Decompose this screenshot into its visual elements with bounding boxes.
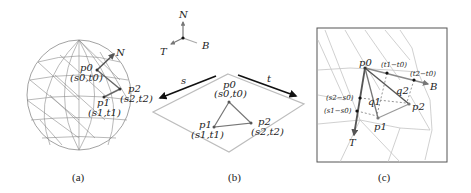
panel-c-t1-t0-label: (t1−t0) <box>381 61 407 69</box>
panel-b-p0-uv-label: (s0,t0) <box>214 88 247 99</box>
panel-c-p2-label: p2 <box>412 101 425 112</box>
panel-a-p1-uv-label: (s1,t1) <box>88 107 121 118</box>
panel-b-p2-uv-label: (s2,t2) <box>251 126 284 137</box>
panel-c-q2-label: q2 <box>396 85 409 96</box>
panel-a-normal-label: N <box>115 47 126 58</box>
panel-b-axis-b-label: B <box>201 40 209 51</box>
panel-c-s2-s0-label: (s2−s0) <box>326 94 354 102</box>
panel-b-axis-t-label: T <box>160 46 168 57</box>
panel-a-p0-uv-label: (s0,t0) <box>70 72 103 83</box>
panel-b-caption: (b) <box>228 171 241 184</box>
panel-c-b-label: B <box>429 81 437 92</box>
panel-a-caption: (a) <box>72 171 85 184</box>
panel-c-s1-s0-label: (s1−s0) <box>324 107 352 115</box>
panel-b-t-arrow-label: t <box>267 73 272 84</box>
panel-c-caption: (c) <box>378 171 391 184</box>
panel-c-t2-t0-label: (t2−t0) <box>410 70 436 78</box>
panel-c-p1-label: p1 <box>374 121 387 132</box>
panel-b-s-arrow-label: s <box>181 75 186 86</box>
figure-canvas: N p0 (s0,t0) p1 (s1,t1) p2 (s2,t2) (a) N… <box>0 0 471 193</box>
panel-c-q1-label: q1 <box>368 96 381 107</box>
panel-b-axis-n-label: N <box>178 9 189 20</box>
panel-c-p0-label: p0 <box>359 57 372 68</box>
panel-a-p2-uv-label: (s2,t2) <box>120 93 153 104</box>
panel-b-p1-uv-label: (s1,t1) <box>191 129 224 140</box>
panel-b-triangle <box>213 101 253 129</box>
panel-b-tangent-frame <box>171 22 197 44</box>
